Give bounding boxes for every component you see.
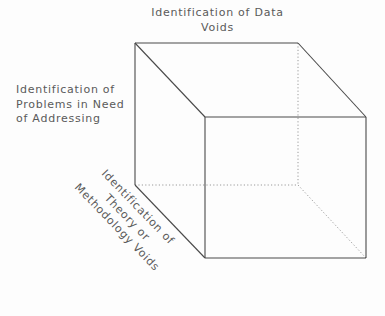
edge-top-left-receding: [135, 43, 205, 117]
cube-diagram: [0, 0, 385, 316]
axis-label-problems-in-need-of-addressing: Identification of Problems in Need of Ad…: [16, 83, 136, 127]
cube-hidden-edges: [135, 43, 366, 258]
cube-solid-edges: [135, 43, 366, 258]
axis-label-data-voids: Identification of Data Voids: [120, 6, 315, 35]
edge-top-right-receding: [298, 43, 366, 117]
edge-back-bottom-right-receding: [298, 185, 366, 258]
research-cube-figure: Identification of Data Voids Identificat…: [0, 0, 385, 316]
